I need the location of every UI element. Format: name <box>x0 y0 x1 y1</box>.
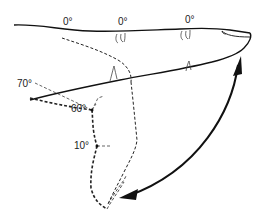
arrowhead-top-icon <box>233 56 242 76</box>
pip-joint-dot <box>91 109 94 112</box>
angle-label-mcp: 70° <box>17 79 32 89</box>
angle-label-pip: 60° <box>71 104 86 114</box>
finger-rom-diagram: 0° 0° 0° 70° 60° 10° <box>0 0 264 222</box>
angle-label-joint3: 0° <box>185 15 195 25</box>
flexed-finger-outline <box>30 38 137 209</box>
angle-label-joint2: 0° <box>118 17 128 27</box>
dip-joint-dot <box>96 145 99 148</box>
motion-arc-arrow <box>128 65 238 196</box>
angle-label-dip: 10° <box>74 141 89 151</box>
arrowhead-bottom-icon <box>119 189 138 200</box>
angle-label-joint1: 0° <box>63 17 73 27</box>
finger-drawing <box>0 0 264 222</box>
joint-creases <box>110 30 191 81</box>
finger-palmar-contour <box>30 62 212 100</box>
finger-dorsal-contour <box>14 25 250 33</box>
